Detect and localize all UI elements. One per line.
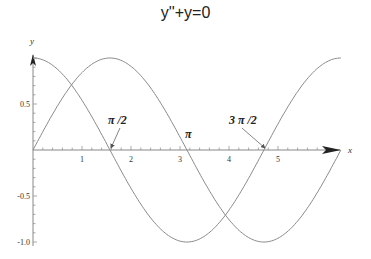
x-tick-label: 4 [227, 155, 231, 164]
x-tick-label: 2 [129, 155, 133, 164]
plot-area: xy123450.5-0.5-1.0π /2π3 π /2 [0, 0, 371, 259]
y-tick-label: -0.5 [17, 192, 30, 201]
annotation-label: π [185, 127, 192, 141]
annotation-arrow [242, 128, 265, 148]
x-axis-label: x [347, 145, 352, 155]
annotation-label: π /2 [108, 113, 127, 127]
annotation-label: 3 π /2 [228, 113, 257, 127]
y-axis-label: y [29, 36, 34, 46]
x-tick-label: 5 [276, 155, 280, 164]
x-tick-label: 1 [80, 155, 84, 164]
y-tick-label: -1.0 [17, 238, 30, 247]
x-tick-label: 3 [178, 155, 182, 164]
annotation-arrow [111, 128, 120, 148]
y-tick-label: 0.5 [20, 100, 30, 109]
